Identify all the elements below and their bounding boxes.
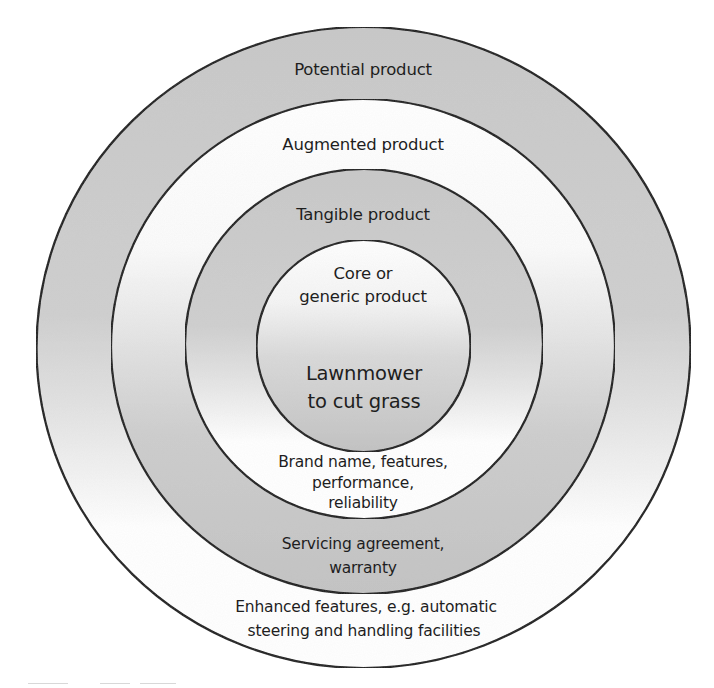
tangible-description-line-1: Brand name, features, — [278, 453, 448, 471]
label-potential-product: Potential product — [294, 60, 432, 79]
label-core-line-1: Core or — [334, 264, 393, 283]
scan-artifact — [28, 683, 68, 684]
label-core-line-2: generic product — [299, 287, 427, 306]
augmented-description-line-1: Servicing agreement, — [282, 535, 445, 553]
label-augmented-product: Augmented product — [282, 135, 444, 154]
tangible-description-line-3: reliability — [328, 494, 398, 512]
core-description-line-1: Lawnmower — [306, 362, 423, 385]
scan-artifact — [100, 683, 130, 684]
label-tangible-product: Tangible product — [295, 205, 430, 224]
product-levels-diagram: Potential product Augmented product Tang… — [0, 0, 714, 688]
scan-artifact — [140, 683, 176, 684]
core-description-line-2: to cut grass — [308, 390, 421, 413]
tangible-description-line-2: performance, — [312, 474, 414, 492]
augmented-description-line-2: warranty — [329, 559, 397, 577]
potential-description-line-1: Enhanced features, e.g. automatic — [235, 598, 496, 616]
potential-description-line-2: steering and handling facilities — [248, 622, 481, 640]
